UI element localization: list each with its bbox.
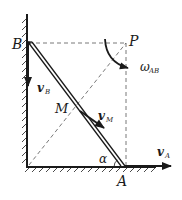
label-v-m: v M	[98, 109, 114, 124]
svg-text:v: v	[157, 145, 165, 159]
label-alpha: α	[99, 152, 107, 166]
svg-text:M: M	[105, 116, 114, 124]
svg-text:v: v	[37, 81, 45, 95]
svg-text:B: B	[44, 88, 50, 96]
svg-text:AB: AB	[148, 67, 159, 75]
label-m: M	[54, 101, 69, 116]
label-a: A	[115, 173, 127, 189]
label-omega-ab: ω AB	[140, 60, 159, 75]
label-p: P	[128, 33, 139, 49]
floor	[25, 167, 156, 172]
label-b: B	[11, 36, 22, 52]
rod-kinematics-diagram: B P M A α v B v M v A ω AB	[0, 0, 182, 200]
svg-text:A: A	[164, 152, 170, 160]
vertical-wall	[22, 14, 27, 167]
label-v-b: v B	[37, 81, 50, 96]
svg-text:v: v	[98, 109, 106, 123]
construction-lines	[29, 43, 126, 165]
dashed-line-o-p	[29, 43, 126, 165]
label-v-a: v A	[157, 145, 170, 160]
